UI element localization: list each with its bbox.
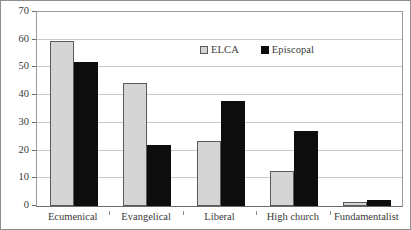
y-tick-label-50: 50 [19,61,30,71]
legend-swatch-elca-icon [200,46,208,54]
x-tick-mark-3 [256,211,257,215]
bar-group-high-church [270,12,318,206]
x-tick-label-fundamentalist: Fundamentalist [334,211,399,223]
bar-group-liberal [197,12,245,206]
x-axis: EcumenicalEvangelicalLiberalHigh churchF… [36,211,403,230]
plot-area: ELCAEpiscopal [36,11,403,207]
x-tick-label-evangelical: Evangelical [121,211,171,223]
bar-episcopal-liberal[interactable] [221,101,245,206]
legend-label-episcopal: Episcopal [272,44,314,55]
bar-episcopal-evangelical[interactable] [147,145,171,206]
bar-elca-high-church[interactable] [270,171,294,206]
y-tick-label-70: 70 [19,6,30,16]
y-axis: 010203040506070 [1,1,36,217]
y-tick-label-20: 20 [19,145,30,155]
x-tick-label-high-church: High church [267,211,319,223]
bar-group-evangelical [123,12,171,206]
bar-group-ecumenical [50,12,98,206]
bar-episcopal-high-church[interactable] [294,131,318,206]
x-tick-mark-1 [109,211,110,215]
x-tick-mark-2 [183,211,184,215]
y-tick-label-30: 30 [19,117,30,127]
legend-swatch-episcopal-icon [261,46,269,54]
y-tick-label-0: 0 [24,200,29,210]
x-tick-label-liberal: Liberal [204,211,234,223]
chart-legend: ELCAEpiscopal [200,44,314,55]
x-tick-mark-4 [330,211,331,215]
bar-elca-liberal[interactable] [197,141,221,206]
x-tick-label-ecumenical: Ecumenical [48,211,98,223]
chart-frame: 010203040506070 ELCAEpiscopal Ecumenical… [0,0,411,230]
legend-entry-episcopal[interactable]: Episcopal [261,44,314,55]
y-tick-label-60: 60 [19,34,30,44]
y-tick-label-40: 40 [19,89,30,99]
bar-episcopal-fundamentalist[interactable] [367,200,391,206]
bar-group-fundamentalist [343,12,391,206]
bars-layer [37,12,402,206]
bar-episcopal-ecumenical[interactable] [74,62,98,206]
bar-elca-evangelical[interactable] [123,83,147,206]
bar-elca-ecumenical[interactable] [50,41,74,206]
legend-label-elca: ELCA [211,44,239,55]
y-tick-label-10: 10 [19,172,30,182]
legend-entry-elca[interactable]: ELCA [200,44,239,55]
bar-elca-fundamentalist[interactable] [343,202,367,206]
